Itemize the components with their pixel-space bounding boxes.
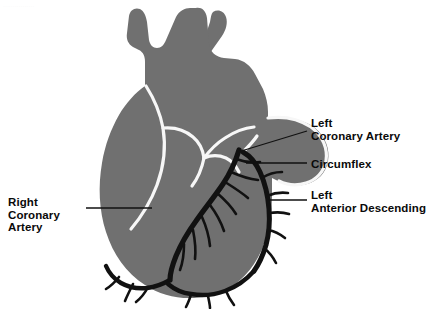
heart-illustration [0,0,447,309]
label-right-coronary-artery: RightCoronaryArtery [8,196,60,234]
label-left-anterior-descending: LeftAnterior Descending [311,189,426,214]
heart-silhouette-group [100,8,329,298]
label-line: Circumflex [311,158,371,171]
label-line: Left [311,189,426,202]
label-left-coronary-artery: LeftCoronary Artery [311,117,400,142]
coronary-branch [208,296,210,308]
label-line: Artery [8,221,60,234]
label-line: Anterior Descending [311,202,426,215]
label-circumflex: Circumflex [311,158,371,171]
heart-body-shape [100,8,329,298]
label-line: Coronary [8,209,60,222]
coronary-artery-diagram: ................ RightCoronaryArteryLeft… [0,0,447,309]
coronary-branch [269,212,289,214]
label-line: Right [8,196,60,209]
label-line: Left [311,117,400,130]
label-line: Coronary Artery [311,130,400,143]
coronary-branch [226,291,234,305]
